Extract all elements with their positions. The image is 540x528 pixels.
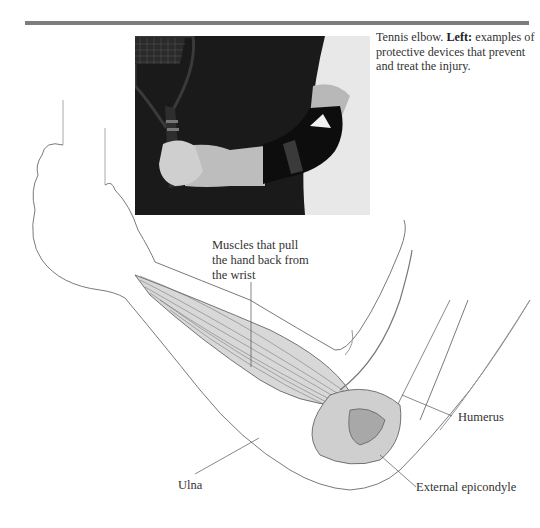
label-muscles-line-3: the wrist [212,268,309,283]
label-ulna: Ulna [178,478,202,493]
label-muscles-line-1: Muscles that pull [212,238,309,253]
label-external-epicondyle: External epicondyle [416,480,516,495]
label-muscles-line-2: the hand back from [212,253,309,268]
label-humerus: Humerus [458,410,504,425]
label-muscles: Muscles that pull the hand back from the… [212,238,309,283]
